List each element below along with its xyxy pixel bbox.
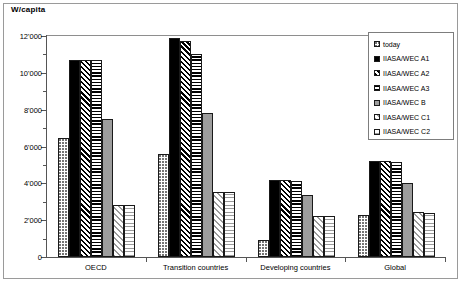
bar — [58, 138, 69, 257]
bar — [180, 41, 191, 257]
bar — [202, 113, 213, 257]
legend-swatch-icon — [374, 56, 380, 62]
y-axis-tick-label: 2'000 — [24, 216, 42, 225]
bar-group — [58, 36, 135, 257]
legend: todayIIASA/WEC A1IIASA/WEC A2IIASA/WEC A… — [368, 32, 454, 140]
bar — [124, 205, 135, 257]
bar — [302, 195, 313, 257]
bar-group — [258, 36, 335, 257]
legend-item: IIASA/WEC C1 — [374, 110, 453, 125]
legend-swatch-icon — [374, 129, 380, 135]
y-axis-tick-label: 4'000 — [24, 179, 42, 188]
bar — [158, 154, 169, 257]
x-axis-tick-label: Developing countries — [260, 263, 330, 272]
x-axis-tick-label: Global — [384, 263, 406, 272]
bar — [424, 213, 435, 257]
y-axis-tick-label: 8'000 — [24, 105, 42, 114]
legend-item-label: IIASA/WEC C1 — [383, 114, 430, 121]
legend-item-label: IIASA/WEC A2 — [383, 70, 429, 77]
bar — [113, 205, 124, 257]
legend-item: IIASA/WEC A1 — [374, 52, 453, 67]
bar — [391, 162, 402, 257]
x-axis-tick-label: Transition countries — [163, 263, 228, 272]
bar — [91, 60, 102, 257]
bar — [69, 60, 80, 257]
bar — [269, 180, 280, 257]
legend-item-label: IIASA/WEC C2 — [383, 128, 430, 135]
legend-item: IIASA/WEC B — [374, 95, 453, 110]
x-axis-tick — [345, 257, 346, 262]
bar — [380, 161, 391, 257]
bar — [358, 215, 369, 257]
legend-item: IIASA/WEC A2 — [374, 66, 453, 81]
bar — [369, 161, 380, 257]
bar — [213, 192, 224, 257]
bar — [413, 212, 424, 257]
bar — [80, 60, 91, 257]
chart-screenshot: W/capita 02'0004'0006'0008'00010'00012'0… — [0, 0, 462, 283]
bar — [324, 216, 335, 257]
x-axis-tick — [445, 257, 446, 262]
bar — [102, 119, 113, 257]
legend-item: IIASA/WEC C2 — [374, 125, 453, 140]
bar — [291, 181, 302, 257]
y-axis-tick-label: 6'000 — [24, 142, 42, 151]
bar — [258, 240, 269, 257]
x-axis-tick — [146, 257, 147, 262]
legend-swatch-icon — [374, 70, 380, 76]
y-axis-tick-label: 0 — [38, 253, 42, 262]
legend-swatch-icon — [374, 100, 380, 106]
y-axis-tick-group: 02'0004'0006'0008'00010'00012'000 — [0, 0, 42, 283]
y-axis-tick-label: 12'000 — [20, 32, 42, 41]
legend-swatch-icon — [374, 114, 380, 120]
legend-item-label: IIASA/WEC B — [383, 99, 426, 106]
y-axis-tick-label: 10'000 — [20, 68, 42, 77]
bar — [191, 54, 202, 257]
bar — [402, 183, 413, 257]
bar — [313, 216, 324, 257]
legend-item: IIASA/WEC A3 — [374, 81, 453, 96]
bar — [169, 38, 180, 257]
bar-group — [158, 36, 235, 257]
legend-item-label: IIASA/WEC A3 — [383, 85, 429, 92]
bar — [280, 180, 291, 257]
legend-swatch-icon — [374, 85, 380, 91]
x-axis-tick — [246, 257, 247, 262]
legend-item: today — [374, 37, 453, 52]
legend-item-label: today — [383, 41, 400, 48]
legend-item-label: IIASA/WEC A1 — [383, 55, 429, 62]
x-axis-tick-label: OECD — [85, 263, 107, 272]
bar — [224, 192, 235, 257]
legend-swatch-icon — [374, 41, 380, 47]
